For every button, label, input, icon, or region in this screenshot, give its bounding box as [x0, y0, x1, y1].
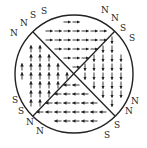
pole-label: S: [12, 95, 18, 105]
pole-label: N: [20, 18, 28, 28]
pole-label: S: [41, 6, 47, 16]
pole-label: N: [26, 117, 34, 127]
pole-label: N: [125, 106, 133, 116]
pole-label: N: [101, 5, 109, 15]
pole-label: S: [104, 130, 110, 140]
pole-label: S: [30, 10, 36, 20]
pole-label: N: [131, 96, 139, 106]
magnetic-domain-diagram: S S N N N N S S S S N N N N S S: [0, 0, 147, 148]
pole-label: N: [10, 28, 18, 38]
pole-label: N: [111, 13, 119, 23]
pole-label: S: [114, 120, 120, 130]
pole-label: N: [36, 126, 44, 136]
pole-label: S: [18, 106, 24, 116]
pole-label: S: [120, 23, 126, 33]
pole-label: S: [129, 33, 135, 43]
